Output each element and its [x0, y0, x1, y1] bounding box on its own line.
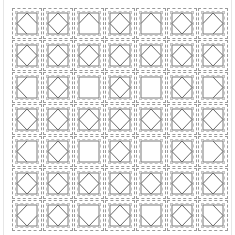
tile-square [110, 141, 130, 162]
puzzle-cell[interactable] [43, 40, 73, 71]
edge-top-left [172, 141, 182, 152]
puzzle-cell[interactable] [136, 72, 166, 103]
edge-bottom-right [213, 24, 223, 35]
puzzle-cell[interactable] [105, 40, 135, 71]
edge-top-right [27, 109, 37, 120]
tile-icon [141, 45, 161, 66]
puzzle-cell[interactable] [12, 200, 42, 231]
puzzle-cell[interactable] [198, 104, 228, 135]
puzzle-cell[interactable] [136, 104, 166, 135]
edge-top-left [48, 141, 58, 152]
edge-bottom-left [141, 216, 151, 227]
edge-bottom-left [17, 152, 27, 163]
puzzle-cell[interactable] [43, 168, 73, 199]
puzzle-cell[interactable] [167, 168, 197, 199]
tile-square [48, 45, 68, 66]
puzzle-cell[interactable] [167, 104, 197, 135]
tile-square [141, 109, 161, 130]
puzzle-cell[interactable] [74, 136, 104, 167]
edge-bottom-right [213, 216, 223, 227]
edge-bottom-left [172, 184, 182, 195]
puzzle-cell[interactable] [105, 72, 135, 103]
tile-square [79, 141, 99, 162]
puzzle-cell[interactable] [198, 72, 228, 103]
puzzle-cell[interactable] [136, 8, 166, 39]
puzzle-cell[interactable] [167, 200, 197, 231]
edge-top-left [172, 173, 182, 184]
puzzle-cell[interactable] [105, 200, 135, 231]
edge-bottom-left [17, 216, 27, 227]
edge-top-right [182, 205, 192, 216]
edge-bottom-right [182, 152, 192, 163]
tile-square [141, 13, 161, 34]
puzzle-cell[interactable] [198, 40, 228, 71]
edge-bottom-right [151, 184, 161, 195]
puzzle-cell[interactable] [12, 40, 42, 71]
tile-icon [203, 13, 223, 34]
edge-top-left [48, 13, 58, 24]
puzzle-cell[interactable] [12, 136, 42, 167]
edge-top-right [182, 141, 192, 152]
puzzle-cell[interactable] [43, 72, 73, 103]
tile-square [110, 109, 130, 130]
tile-icon [172, 45, 192, 66]
edge-bottom-left [17, 56, 27, 67]
puzzle-cell[interactable] [198, 136, 228, 167]
edge-bottom-right [89, 216, 99, 227]
puzzle-cell[interactable] [74, 72, 104, 103]
tile-icon [17, 205, 37, 226]
puzzle-cell[interactable] [198, 200, 228, 231]
puzzle-cell[interactable] [167, 72, 197, 103]
puzzle-cell[interactable] [105, 168, 135, 199]
puzzle-cell[interactable] [136, 136, 166, 167]
edge-bottom-right [27, 216, 37, 227]
puzzle-cell[interactable] [136, 168, 166, 199]
tile-icon [141, 173, 161, 194]
puzzle-cell[interactable] [136, 40, 166, 71]
tile-square [141, 77, 161, 98]
edge-top-right [151, 13, 161, 24]
puzzle-board [12, 8, 228, 231]
puzzle-cell[interactable] [167, 40, 197, 71]
puzzle-cell[interactable] [43, 136, 73, 167]
tile-icon [203, 45, 223, 66]
puzzle-cell[interactable] [12, 104, 42, 135]
puzzle-cell[interactable] [74, 200, 104, 231]
tile-icon [79, 13, 99, 34]
tile-square [203, 173, 223, 194]
puzzle-cell[interactable] [43, 200, 73, 231]
edge-top-right [120, 141, 130, 152]
puzzle-cell[interactable] [74, 168, 104, 199]
edge-top-left [17, 13, 27, 24]
edge-top-left [172, 77, 182, 88]
puzzle-cell[interactable] [12, 8, 42, 39]
edge-bottom-left [17, 184, 27, 195]
tile-icon [172, 77, 192, 98]
puzzle-cell[interactable] [12, 72, 42, 103]
tile-square [172, 109, 192, 130]
edge-bottom-left [110, 184, 120, 195]
tile-square [79, 77, 99, 98]
edge-bottom-left [203, 56, 213, 67]
puzzle-cell[interactable] [198, 8, 228, 39]
tile-square [172, 173, 192, 194]
puzzle-cell[interactable] [105, 8, 135, 39]
puzzle-cell[interactable] [198, 168, 228, 199]
tile-square [17, 109, 37, 130]
puzzle-cell[interactable] [74, 40, 104, 71]
edge-top-left [48, 205, 58, 216]
puzzle-cell[interactable] [43, 104, 73, 135]
puzzle-cell[interactable] [43, 8, 73, 39]
puzzle-cell[interactable] [74, 8, 104, 39]
tile-icon [172, 141, 192, 162]
tile-icon [17, 77, 37, 98]
puzzle-cell[interactable] [167, 8, 197, 39]
puzzle-cell[interactable] [167, 136, 197, 167]
tile-square [203, 77, 223, 98]
puzzle-cell[interactable] [74, 104, 104, 135]
puzzle-cell[interactable] [136, 200, 166, 231]
edge-bottom-left [110, 88, 120, 99]
puzzle-cell[interactable] [105, 104, 135, 135]
puzzle-cell[interactable] [105, 136, 135, 167]
puzzle-cell[interactable] [12, 168, 42, 199]
